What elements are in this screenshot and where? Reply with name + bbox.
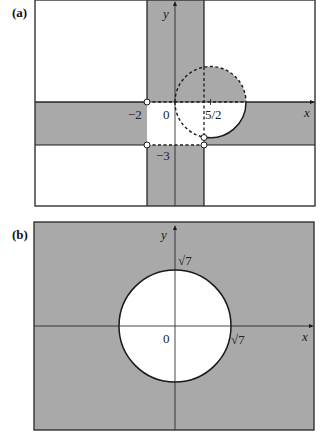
- tick-label-x-sqrt7: √7: [231, 332, 245, 347]
- y-axis-label: y: [161, 6, 169, 21]
- figure: (a): [0, 0, 323, 446]
- tick-label-neg2: −2: [128, 107, 142, 122]
- origin-label: 0: [163, 331, 170, 346]
- x-axis-label: x: [303, 105, 310, 120]
- open-point-neg2-neg3: [144, 142, 150, 148]
- origin-label: 0: [163, 107, 170, 122]
- tick-label-y-sqrt7: √7: [178, 253, 192, 268]
- panel-b: (b) y x 0 √7 √7: [12, 222, 314, 430]
- tick-label-neg3: −3: [156, 148, 170, 163]
- open-point-strip-corner: [201, 142, 207, 148]
- open-point-neg2-0: [144, 99, 150, 105]
- panel-b-label: (b): [12, 227, 28, 242]
- x-axis-label: x: [301, 329, 308, 344]
- tick-label-5-2: 5/2: [205, 107, 222, 122]
- panel-a: (a): [12, 0, 315, 206]
- panel-a-label: (a): [12, 5, 27, 20]
- y-axis-label: y: [159, 227, 167, 242]
- open-point-circle-intersection: [201, 135, 207, 141]
